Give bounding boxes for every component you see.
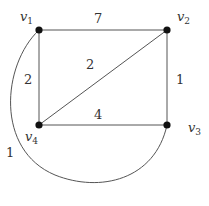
vertex-v2 [163, 26, 170, 33]
vertex-v1 [35, 26, 42, 33]
weight-v1-v3-curved: 1 [6, 146, 14, 159]
weight-v1-v2: 7 [94, 12, 102, 25]
vertex-label-v1: v1 [20, 10, 33, 26]
vertex-label-v4: v4 [25, 130, 38, 146]
vertex-v4 [35, 121, 42, 128]
vertex-label-v2: v2 [177, 10, 190, 26]
edge-v1-v3-curved [11, 30, 167, 183]
edge-v4-v2 [39, 30, 167, 125]
vertex-label-v3: v3 [188, 121, 201, 137]
weight-v4-v3: 4 [94, 108, 102, 121]
vertex-v3 [163, 121, 170, 128]
weight-v1-v4: 2 [24, 73, 32, 86]
weight-v4-v2: 2 [86, 58, 94, 71]
weighted-graph [0, 0, 209, 206]
weight-v2-v3: 1 [176, 73, 184, 86]
